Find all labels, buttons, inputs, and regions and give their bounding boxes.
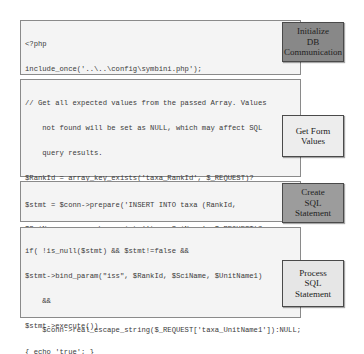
label-get-form-values: Get Form Values [282, 115, 344, 157]
code-block-initialize-db: <?php include_once('..\..\config\symbini… [20, 20, 301, 75]
label-process-sql-statement: Process SQL Statement [282, 260, 344, 307]
code-comment: not found will be set as NULL, which may… [25, 124, 296, 132]
code-block-process-sql-statement: if( !is_null($stmt) && $stmt!=false && $… [20, 227, 301, 318]
label-text: Initialize [297, 26, 329, 37]
label-text: Process [299, 268, 327, 279]
code-comment: query results. [25, 149, 296, 157]
label-initialize-db-communication: Initialize DB Communication [282, 22, 344, 62]
label-text: SQL [304, 278, 321, 289]
code-line: $stmt->execute()) [25, 322, 296, 330]
code-line: { echo 'true'; } [25, 348, 296, 354]
label-text: Values [301, 136, 325, 147]
label-text: Statement [295, 289, 331, 300]
code-line: $stmt->bind_param("iss", $RankId, $SciNa… [25, 272, 296, 280]
code-block-create-sql-statement: $stmt = $conn->prepare('INSERT INTO taxa… [20, 181, 301, 222]
label-text: Statement [295, 208, 331, 219]
label-text: Communication [284, 47, 342, 58]
label-create-sql-statement: Create SQL Statement [282, 183, 344, 223]
label-text: Get Form [296, 126, 331, 137]
code-line: if( !is_null($stmt) && $stmt!=false && [25, 247, 296, 255]
label-text: Create [301, 187, 324, 198]
code-line: include_once('..\..\config\symbini.php')… [25, 65, 296, 73]
code-line: <?php [25, 40, 296, 48]
label-text: DB [307, 37, 320, 48]
code-line: && [25, 297, 296, 305]
code-comment: // Get all expected values from the pass… [25, 99, 296, 107]
label-text: SQL [304, 198, 321, 209]
code-block-get-form-values: // Get all expected values from the pass… [20, 79, 301, 177]
code-line: $stmt = $conn->prepare('INSERT INTO taxa… [25, 201, 296, 209]
